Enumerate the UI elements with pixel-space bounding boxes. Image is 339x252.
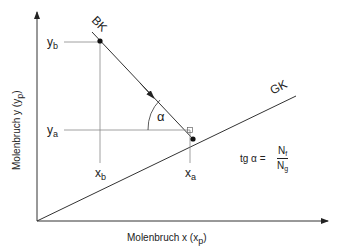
direction-arrow: [140, 83, 152, 96]
label-ya: ya: [47, 124, 58, 139]
xb-sub: b: [101, 172, 106, 182]
label-alpha: α: [157, 110, 165, 123]
label-xa: xa: [185, 167, 196, 182]
formula-lhs: tg α =: [240, 154, 266, 164]
point-top: [97, 38, 102, 43]
point-operating: [190, 136, 195, 141]
y-axis-title: Molenbruch y (yp): [12, 91, 25, 171]
label-xb: xb: [95, 167, 106, 182]
label-yb: yb: [47, 36, 58, 51]
x-axis-title: Molenbruch x (xp): [127, 233, 207, 246]
formula-fraction: Nf Ng: [277, 145, 288, 172]
ya-sub: a: [53, 129, 58, 139]
formula-numerator: Nf: [277, 145, 288, 159]
xa-sub: a: [191, 172, 196, 182]
formula-denominator: Ng: [277, 159, 288, 172]
yb-sub: b: [53, 41, 58, 51]
